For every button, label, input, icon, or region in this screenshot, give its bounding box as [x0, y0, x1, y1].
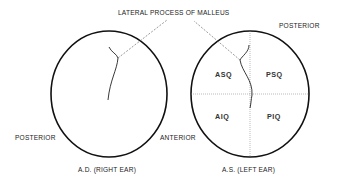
quadrant-aiq: AIQ	[215, 113, 229, 120]
malleus-label: LATERAL PROCESS OF MALLEUS	[118, 10, 229, 17]
left-ear-pointer-line	[194, 21, 240, 60]
quadrant-psq: PSQ	[266, 71, 283, 78]
quadrant-piq: PIQ	[267, 113, 281, 120]
right-ear-caption: A.D. (RIGHT EAR)	[78, 167, 136, 174]
left-ear-caption: A.S. (LEFT EAR)	[222, 167, 275, 174]
right-ear-posterior-label: POSTERIOR	[15, 135, 56, 142]
right-ear-pointer-line	[118, 20, 167, 58]
left-ear-malleus	[240, 45, 252, 108]
right-ear-malleus	[108, 47, 118, 100]
right-ear-anterior-label: ANTERIOR	[160, 135, 196, 142]
quadrant-asq: ASQ	[215, 71, 232, 78]
left-ear-posterior-label: POSTERIOR	[279, 23, 320, 30]
